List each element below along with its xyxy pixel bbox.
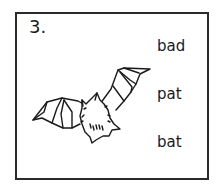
- answer-option-pat[interactable]: pat: [157, 85, 182, 103]
- answer-option-bat[interactable]: bat: [157, 133, 182, 151]
- answer-option-bad[interactable]: bad: [157, 37, 185, 55]
- bat-icon: [0, 0, 220, 188]
